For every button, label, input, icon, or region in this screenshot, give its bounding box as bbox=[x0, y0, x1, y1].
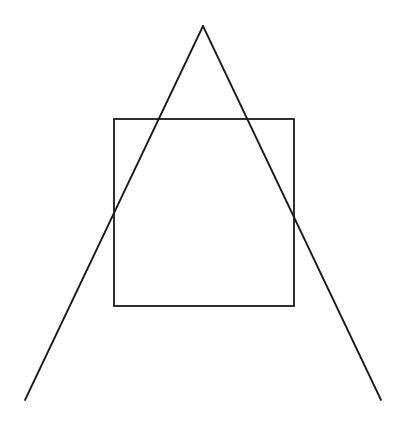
square-shape bbox=[114, 119, 294, 306]
diagram-canvas bbox=[0, 0, 406, 425]
triangle-right-side bbox=[203, 26, 381, 400]
triangle-left-side bbox=[25, 26, 203, 400]
